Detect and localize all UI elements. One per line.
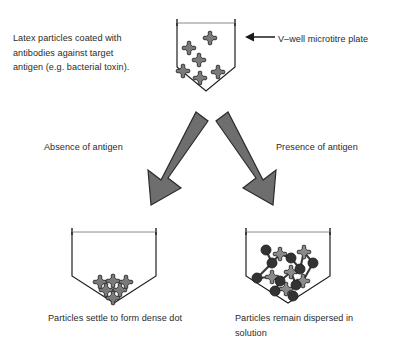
microtitre-plate-label: V–well microtitre plate	[278, 32, 398, 47]
top-well-particles	[176, 31, 225, 85]
antigen-circle-icon	[270, 286, 280, 296]
bottom-right-well-group	[246, 228, 330, 303]
v-well-icon	[177, 23, 235, 91]
left-outcome-caption: Particles settle to form dense dot	[48, 311, 213, 326]
latex-particles-label: Latex particles coated with antibodies a…	[13, 31, 165, 75]
antigen-circle-icon	[291, 280, 301, 290]
top-well-group	[176, 19, 235, 91]
antigen-circle-icon	[295, 264, 305, 274]
presence-of-antigen-label: Presence of antigen	[276, 140, 396, 155]
plate-pointer-arrow	[245, 32, 275, 41]
antigen-circle-icon	[286, 253, 296, 263]
thick-diagonal-arrow-icon	[216, 112, 276, 205]
clover-particle-icon	[203, 31, 217, 45]
clover-particle-icon	[106, 274, 120, 288]
bottom-left-well-group	[72, 228, 156, 305]
settled-particle-cluster	[93, 274, 133, 305]
antigen-circle-icon	[261, 245, 271, 255]
clover-particle-icon	[192, 53, 206, 67]
antigen-circle-icon	[288, 291, 298, 301]
clover-particle-icon	[182, 41, 196, 55]
left-pointing-arrow-icon	[245, 32, 254, 41]
thick-diagonal-arrow-icon	[148, 112, 208, 205]
absence-of-antigen-label: Absence of antigen	[44, 140, 164, 155]
antigen-circle-icon	[275, 276, 285, 286]
antigen-circle-icon	[252, 273, 262, 283]
antigen-circle-icon	[308, 258, 318, 268]
antigen-circle-icon	[267, 258, 277, 268]
presence-flow-arrow	[216, 112, 276, 205]
right-outcome-caption: Particles remain dispersed in solution	[235, 311, 370, 340]
latex-agglutination-diagram: Latex particles coated with antibodies a…	[0, 0, 400, 346]
absence-flow-arrow	[148, 112, 208, 205]
